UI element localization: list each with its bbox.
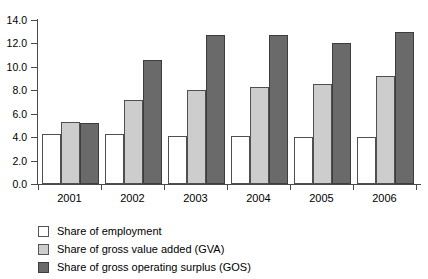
y-tick-label: 14.0 — [0, 15, 27, 25]
y-tick-label: 8.0 — [0, 85, 27, 95]
bar — [143, 60, 162, 184]
bar — [187, 90, 206, 184]
plot-area — [38, 20, 420, 184]
x-tick — [38, 185, 39, 190]
bar — [80, 123, 99, 184]
y-tick — [31, 90, 37, 91]
y-tick-label: 2.0 — [0, 156, 27, 166]
y-tick-label: 12.0 — [0, 38, 27, 48]
y-tick — [31, 20, 37, 21]
x-tick — [101, 185, 102, 190]
bar — [105, 134, 124, 184]
bar — [376, 76, 395, 184]
bar — [250, 87, 269, 184]
x-axis-label: 2001 — [41, 192, 98, 204]
bar — [61, 122, 80, 184]
legend-swatch-icon — [38, 262, 49, 273]
bar-group — [168, 20, 228, 184]
bar-group — [294, 20, 354, 184]
x-axis-label: 2003 — [167, 192, 224, 204]
bar — [231, 136, 250, 184]
x-tick — [416, 185, 417, 190]
x-axis-line — [37, 184, 421, 185]
y-tick-label: 6.0 — [0, 109, 27, 119]
y-tick — [31, 114, 37, 115]
legend-item: Share of gross operating surplus (GOS) — [38, 258, 418, 276]
bar — [357, 137, 376, 184]
bar-group — [231, 20, 291, 184]
legend-swatch-icon — [38, 226, 49, 237]
bar — [332, 43, 351, 184]
bar-group — [357, 20, 417, 184]
y-tick — [31, 137, 37, 138]
x-tick — [164, 185, 165, 190]
bar-group — [105, 20, 165, 184]
y-tick-label: 10.0 — [0, 62, 27, 72]
bar — [206, 35, 225, 184]
x-axis-label: 2006 — [356, 192, 413, 204]
bar-group — [42, 20, 102, 184]
y-tick-label: 4.0 — [0, 132, 27, 142]
bar — [269, 35, 288, 184]
y-tick — [31, 67, 37, 68]
bar — [395, 32, 414, 184]
legend-label: Share of employment — [57, 225, 162, 238]
legend-label: Share of gross value added (GVA) — [57, 243, 224, 256]
y-tick — [31, 43, 37, 44]
x-axis-label: 2005 — [293, 192, 350, 204]
y-tick-label: 0.0 — [0, 179, 27, 189]
legend-swatch-icon — [38, 244, 49, 255]
bar — [42, 134, 61, 184]
y-tick — [31, 184, 37, 185]
legend-item: Share of employment — [38, 222, 418, 240]
chart-legend: Share of employmentShare of gross value … — [38, 222, 418, 276]
bar — [124, 100, 143, 184]
bar — [168, 136, 187, 184]
legend-label: Share of gross operating surplus (GOS) — [57, 261, 251, 274]
x-axis-label: 2002 — [104, 192, 161, 204]
x-tick — [290, 185, 291, 190]
y-tick — [31, 161, 37, 162]
x-tick — [353, 185, 354, 190]
legend-item: Share of gross value added (GVA) — [38, 240, 418, 258]
bar — [294, 137, 313, 184]
x-tick — [227, 185, 228, 190]
bar — [313, 84, 332, 184]
x-axis-label: 2004 — [230, 192, 287, 204]
bar-chart: 0.02.04.06.08.010.012.014.0 200120022003… — [0, 0, 428, 279]
